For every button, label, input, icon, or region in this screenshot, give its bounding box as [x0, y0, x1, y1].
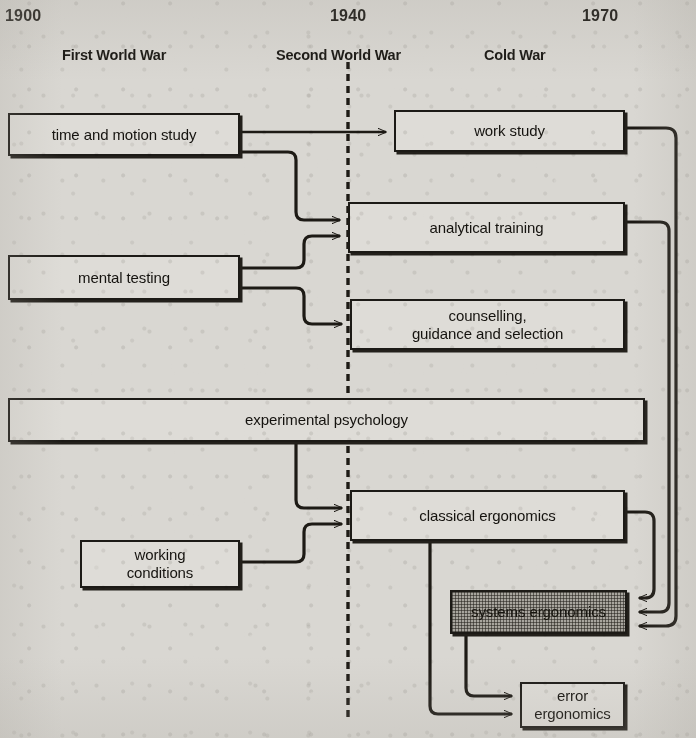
node-classical-ergonomics[interactable]: classical ergonomics: [350, 490, 625, 541]
node-work-study[interactable]: work study: [394, 110, 625, 152]
node-mental-testing[interactable]: mental testing: [8, 255, 240, 300]
node-time-and-motion-study[interactable]: time and motion study: [8, 113, 240, 156]
edge-mental-testing-to-counselling: [242, 288, 342, 324]
node-label: counselling,guidance and selection: [412, 307, 563, 342]
era-label-first-world-war: First World War: [62, 47, 166, 63]
node-counselling-guidance-and-selection[interactable]: counselling,guidance and selection: [350, 299, 625, 350]
node-working-conditions[interactable]: workingconditions: [80, 540, 240, 588]
edge-systems-to-error: [466, 636, 512, 696]
node-label: mental testing: [78, 269, 170, 287]
node-label: analytical training: [430, 219, 544, 237]
year-label-1940: 1940: [330, 7, 366, 25]
node-label: workingconditions: [127, 546, 194, 581]
era-label-cold-war: Cold War: [484, 47, 546, 63]
node-label: errorergonomics: [534, 687, 611, 722]
node-label: work study: [474, 122, 545, 140]
year-label-1900: 1900: [5, 7, 41, 25]
edge-classical-to-systems: [627, 512, 654, 598]
edge-work-study-to-systems: [627, 128, 676, 626]
node-label: classical ergonomics: [419, 507, 555, 525]
node-experimental-psychology[interactable]: experimental psychology: [8, 398, 645, 442]
node-analytical-training[interactable]: analytical training: [348, 202, 625, 253]
edge-working-conditions-to-classical: [242, 524, 342, 562]
era-label-second-world-war: Second World War: [276, 47, 401, 63]
node-label: systems ergonomics: [471, 603, 606, 621]
edge-experimental-psych-to-classical: [296, 444, 342, 508]
node-systems-ergonomics[interactable]: systems ergonomics: [450, 590, 627, 634]
diagram-canvas: 1900 1940 1970 First World War Second Wo…: [0, 0, 696, 738]
node-label: time and motion study: [52, 126, 197, 144]
node-error-ergonomics[interactable]: errorergonomics: [520, 682, 625, 728]
edge-mental-testing-to-analytical: [242, 236, 340, 268]
node-label: experimental psychology: [245, 411, 408, 429]
edge-time-motion-to-analytical: [242, 152, 340, 220]
year-label-1970: 1970: [582, 7, 618, 25]
